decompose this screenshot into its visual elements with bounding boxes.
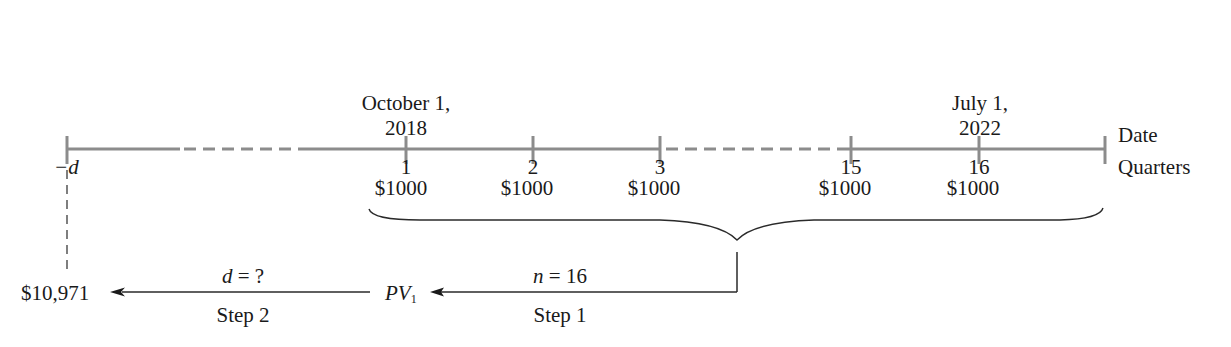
step2-bottom-label: Step 2 — [216, 303, 269, 327]
date-label-end-line2: 2022 — [959, 116, 1001, 140]
payment-label: $1000 — [947, 176, 1000, 200]
step1-top-label: n = 16 — [533, 264, 587, 288]
cash-flow-timeline-diagram: October 1, 2018 July 1, 2022 Date Quarte… — [0, 0, 1231, 347]
payment-label: $1000 — [819, 176, 872, 200]
pv1-label: PV1 — [384, 281, 417, 306]
payment-label: $1000 — [501, 176, 554, 200]
payments-brace — [369, 208, 1103, 240]
step1-bottom-label: Step 1 — [533, 303, 586, 327]
date-label-start-line1: October 1, — [362, 91, 451, 115]
payment-label: $1000 — [375, 176, 428, 200]
row-label-date: Date — [1118, 123, 1158, 147]
timeline — [67, 136, 1105, 164]
payment-label: $1000 — [628, 176, 681, 200]
step1-arrow — [440, 252, 737, 292]
date-label-start-line2: 2018 — [385, 116, 427, 140]
step2-top-label: d = ? — [222, 264, 264, 288]
step2-result-value: $10,971 — [21, 281, 89, 305]
row-label-quarters: Quarters — [1118, 155, 1190, 179]
date-label-end-line1: July 1, — [952, 91, 1008, 115]
